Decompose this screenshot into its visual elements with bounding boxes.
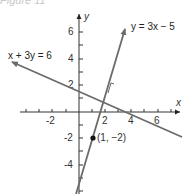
x-tick-label: 2 [102,115,108,126]
point-marker [90,135,95,140]
y-tick-label: 6 [68,26,74,37]
equation-label-line1: y = 3x − 5 [131,21,175,32]
coordinate-graph: -2 2 4 6 6 4 2 -2 -4 y x (1, −2) y = 3x … [0,0,184,194]
x-tick-label: -2 [46,115,55,126]
y-tick-label: -4 [64,159,73,170]
y-tick-label: -2 [64,132,73,143]
x-tick-label: 4 [128,115,134,126]
x-axis-label: x [175,97,182,108]
equation-label-line2: x + 3y = 6 [8,50,52,61]
y-tick-label: 4 [68,53,74,64]
point-label: (1, −2) [97,132,126,143]
y-axis-label: y [83,11,90,22]
